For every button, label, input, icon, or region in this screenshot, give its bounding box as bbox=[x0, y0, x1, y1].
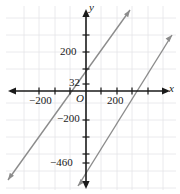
coordinate-plane-graph: 200 32 −200 −460 −200 200 O x y bbox=[0, 0, 180, 194]
x-tick-label-200: 200 bbox=[107, 95, 124, 106]
y-intercept-label-32: 32 bbox=[69, 77, 80, 88]
plot-area bbox=[0, 0, 180, 194]
origin-label: O bbox=[76, 93, 84, 104]
x-axis-label: x bbox=[169, 83, 174, 94]
y-tick-label-neg460: −460 bbox=[50, 157, 73, 168]
y-tick-label-200: 200 bbox=[60, 46, 77, 57]
y-axis-label: y bbox=[89, 2, 94, 13]
x-tick-label-neg200: −200 bbox=[29, 95, 52, 106]
y-tick-label-neg200: −200 bbox=[57, 113, 80, 124]
series-line-2 bbox=[78, 35, 172, 186]
